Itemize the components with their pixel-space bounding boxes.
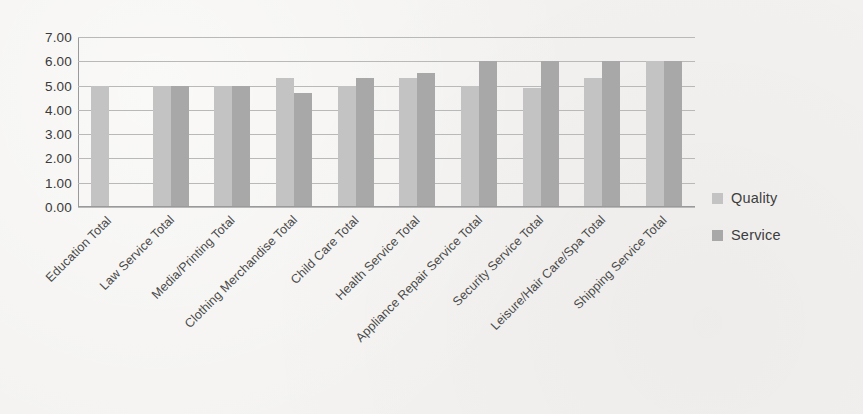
bar-service[interactable] — [417, 73, 435, 207]
bar-group — [325, 37, 387, 207]
x-axis-line — [78, 206, 695, 207]
bar-service[interactable] — [171, 86, 189, 207]
bar-quality[interactable] — [399, 78, 417, 207]
bar-service[interactable] — [664, 61, 682, 207]
y-axis: 7.006.005.004.003.002.001.000.00 — [22, 0, 72, 414]
bar-chart: 7.006.005.004.003.002.001.000.00 Educati… — [0, 0, 863, 414]
bar-quality[interactable] — [214, 86, 232, 207]
y-axis-tick-label: 2.00 — [45, 151, 72, 166]
y-axis-tick-label: 3.00 — [45, 127, 72, 142]
bars-layer — [78, 37, 695, 207]
bar-quality[interactable] — [461, 86, 479, 207]
y-axis-tick-label: 0.00 — [45, 200, 72, 215]
bar-group — [448, 37, 510, 207]
bar-service[interactable] — [541, 61, 559, 207]
bar-quality[interactable] — [523, 88, 541, 207]
bar-service[interactable] — [479, 61, 497, 207]
service-swatch-icon — [712, 230, 723, 241]
x-axis-tick-label: Leisure/Hair Care/Spa Total — [488, 213, 608, 333]
y-axis-tick-label: 5.00 — [45, 78, 72, 93]
legend-label: Quality — [731, 190, 778, 206]
bar-quality[interactable] — [646, 61, 664, 207]
bar-quality[interactable] — [153, 86, 171, 207]
legend-item-service[interactable]: Service — [712, 227, 781, 243]
x-axis: Education TotalLaw Service TotalMedia/Pr… — [78, 209, 778, 359]
quality-swatch-icon — [712, 193, 723, 204]
y-axis-tick-label: 4.00 — [45, 102, 72, 117]
y-axis-tick-label: 1.00 — [45, 175, 72, 190]
bar-quality[interactable] — [338, 86, 356, 207]
bar-quality[interactable] — [584, 78, 602, 207]
bar-group — [263, 37, 325, 207]
bar-service[interactable] — [232, 86, 250, 207]
bar-group — [387, 37, 449, 207]
bar-service[interactable] — [602, 61, 620, 207]
chart-legend: QualityService — [712, 190, 781, 243]
bar-group — [201, 37, 263, 207]
gridline — [78, 207, 695, 208]
legend-label: Service — [731, 227, 781, 243]
bar-service[interactable] — [356, 78, 374, 207]
bar-group — [140, 37, 202, 207]
bar-service[interactable] — [294, 93, 312, 207]
bar-group — [572, 37, 634, 207]
legend-item-quality[interactable]: Quality — [712, 190, 781, 206]
bar-group — [633, 37, 695, 207]
bar-group — [78, 37, 140, 207]
bar-group — [510, 37, 572, 207]
x-axis-tick-label: Appliance Repair Service Total — [353, 213, 485, 345]
y-axis-tick-label: 7.00 — [45, 30, 72, 45]
plot-area — [78, 37, 695, 207]
bar-quality[interactable] — [276, 78, 294, 207]
x-axis-tick-label: Clothing Merchandise Total — [182, 213, 300, 331]
y-axis-tick-label: 6.00 — [45, 54, 72, 69]
bar-quality[interactable] — [91, 86, 109, 207]
